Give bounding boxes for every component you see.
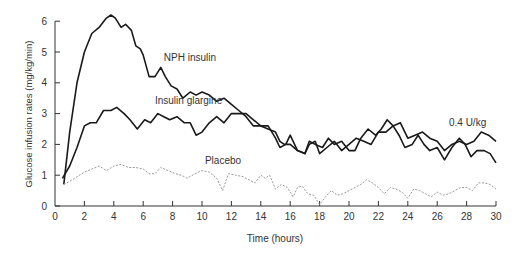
x-tick-label: 10 [196, 211, 208, 222]
x-tick-label: 2 [82, 211, 88, 222]
y-tick-label: 6 [41, 16, 47, 27]
series-lines [62, 15, 496, 205]
y-tick-label: 2 [41, 139, 47, 150]
y-tick-label: 1 [41, 170, 47, 181]
annotations: NPH insulinInsulin glarginePlacebo0.4 U/… [155, 52, 486, 166]
y-tick-label: 4 [41, 77, 47, 88]
y-tick-label: 0 [41, 201, 47, 212]
x-tick-label: 26 [432, 211, 444, 222]
x-tick-label: 4 [111, 211, 117, 222]
y-tick-label: 5 [41, 47, 47, 58]
x-tick-label: 24 [402, 211, 414, 222]
axes: 0123456024681012141618202224262830 [41, 16, 502, 222]
glucose-infusion-chart: 0123456024681012141618202224262830 NPH i… [0, 0, 518, 256]
x-tick-label: 12 [226, 211, 238, 222]
x-tick-label: 22 [373, 211, 385, 222]
x-tick-label: 20 [343, 211, 355, 222]
x-tick-label: 14 [255, 211, 267, 222]
annotation-label: Placebo [205, 155, 242, 166]
x-tick-label: 0 [52, 211, 58, 222]
y-tick-label: 3 [41, 108, 47, 119]
x-tick-label: 30 [490, 211, 502, 222]
x-axis-label: Time (hours) [247, 233, 303, 244]
x-tick-label: 8 [170, 211, 176, 222]
y-axis-label: Glucose infusion rates (mg/kg/min) [23, 41, 34, 188]
annotation-label: Insulin glargine [155, 95, 223, 106]
insulin-glargine-line [62, 107, 496, 178]
nph-insulin-line [64, 15, 496, 184]
x-tick-label: 16 [285, 211, 297, 222]
annotation-label: NPH insulin [164, 52, 216, 63]
annotation-label: 0.4 U/kg [449, 117, 486, 128]
x-tick-label: 28 [461, 211, 473, 222]
x-tick-label: 6 [140, 211, 146, 222]
placebo-line [64, 164, 496, 204]
x-tick-label: 18 [314, 211, 326, 222]
